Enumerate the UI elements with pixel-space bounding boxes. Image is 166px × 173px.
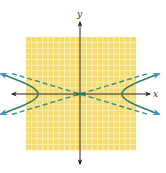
y-axis-label: y <box>76 9 83 19</box>
center-dot <box>78 92 82 96</box>
hyperbola-diagram: x y <box>0 0 166 173</box>
x-axis-label: x <box>153 89 158 99</box>
